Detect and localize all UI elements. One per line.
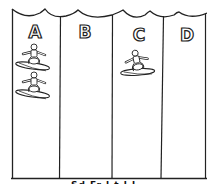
surfer-icon-lane-a-2 [15, 72, 50, 99]
lane-label-a: A [20, 24, 50, 41]
wave-line [12, 9, 207, 17]
lane-divider-bc [112, 15, 113, 178]
lane-label-c: C [124, 27, 154, 44]
surfer-icon-lane-c-1 [116, 47, 156, 81]
lane-label-d: D [172, 27, 202, 44]
lanes-diagram: A B C D Sd Fr l t l l [0, 0, 207, 184]
lane-divider-cd [161, 16, 164, 178]
lane-divider-ab [60, 16, 61, 178]
surfer-icon-lane-a-1 [15, 44, 50, 71]
caption-cut-off: Sd Fr l t l l [0, 180, 207, 184]
lane-label-b: B [70, 24, 100, 41]
